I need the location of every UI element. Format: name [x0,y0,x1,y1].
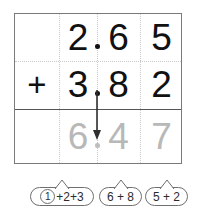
bubble-pointer-icon [53,179,71,189]
addend1-sign-cell [15,14,59,61]
bubble-pointer-icon [112,179,130,189]
addend2-decimal-point [95,91,100,96]
column-addition-grid: 2 6 5 + 3 8 2 6 4 7 [14,13,182,164]
sum-tenths-digit: 4 [97,109,140,163]
callout-expression-tenths: 6 + 8 [107,190,134,204]
bubble-pointer-icon [158,179,176,189]
sum-decimal-point [95,143,100,148]
addend-row-2: + 3 8 2 [15,61,181,108]
sum-sign-cell [15,109,59,163]
addend1-tenths-digit: 6 [97,14,140,61]
sum-ones-digit: 6 [59,109,97,163]
carry-digit-ones: 1 [40,189,55,204]
callout-bubble-tenths-column: 6 + 8 [99,187,142,206]
addend-row-1: 2 6 5 [15,14,181,61]
addend2-ones-digit: 3 [59,61,97,108]
callout-expression-ones: +2+3 [56,190,83,204]
plus-sign: + [15,61,59,108]
callout-bubble-hundredths-column: 5 + 2 [145,187,188,206]
sum-hundredths-digit: 7 [140,109,183,163]
addend2-tenths-digit: 8 [97,61,140,108]
callout-expression-hundredths: 5 + 2 [153,190,180,204]
sum-row: 6 4 7 [15,109,181,163]
addend1-hundredths-digit: 5 [140,14,183,61]
addend1-decimal-point [95,44,100,49]
addend1-ones-digit: 2 [59,14,97,61]
callout-bubble-ones-column: 1 +2+3 [30,187,94,206]
addend2-hundredths-digit: 2 [140,61,183,108]
